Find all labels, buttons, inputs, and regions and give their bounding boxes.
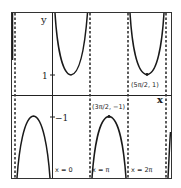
point-local-max (108, 115, 111, 118)
branch-neg-pi-0 (17, 116, 50, 178)
csc-graph: y x 1 −1 (5π/2, 1) (3π/2, −1) x = 0 x = … (0, 0, 181, 188)
y-axis-label: y (40, 14, 47, 25)
branch-right-edge (168, 132, 171, 178)
asymptote-label-pi: x = π (92, 166, 109, 174)
x-axis-label: x (157, 94, 164, 105)
asymptote-label-0: x = 0 (55, 166, 73, 174)
asymptote-label-2pi: x = 2π (131, 166, 153, 174)
point-local-min (146, 73, 149, 76)
point-label-3pi2: (3π/2, −1) (92, 103, 125, 111)
branch-0-pi (55, 13, 88, 75)
tick-label-1: 1 (42, 71, 48, 81)
branch-2pi-3pi (130, 13, 164, 75)
point-label-5pi2: (5π/2, 1) (131, 81, 159, 89)
tick-label-neg1: −1 (55, 113, 68, 123)
